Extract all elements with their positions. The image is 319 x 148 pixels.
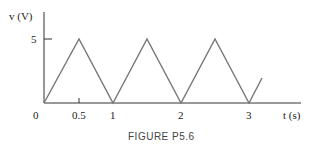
waveform-line xyxy=(44,39,262,103)
x-axis-label: t (s) xyxy=(283,109,301,122)
x-tick-label-0: 0 xyxy=(33,109,39,121)
x-tick-label-1: 1 xyxy=(110,109,116,121)
x-tick-label-0.5: 0.5 xyxy=(72,109,86,121)
x-tick-label-2: 2 xyxy=(178,109,184,121)
y-axis-label: v (V) xyxy=(9,10,33,23)
x-tick-label-3: 3 xyxy=(246,109,252,121)
triangle-wave-chart: v (V) 5 0 0.5 1 2 3 t (s) FIGURE P5.6 xyxy=(0,0,319,148)
figure-caption: FIGURE P5.6 xyxy=(128,131,195,142)
y-tick-label-5: 5 xyxy=(31,33,37,45)
